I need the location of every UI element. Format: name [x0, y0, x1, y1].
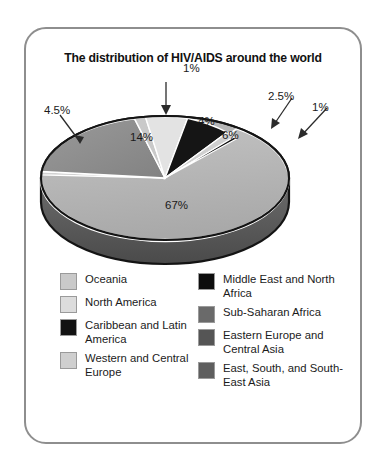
legend-swatch-western-central-europe — [60, 352, 77, 369]
legend-swatch-middle-east-north-africa — [198, 273, 215, 290]
legend-label-east-south-southeast-asia: East, South, and South-East Asia — [223, 361, 358, 389]
pie-chart-svg — [24, 60, 362, 270]
legend-column-right: Middle East and North Africa Sub-Saharan… — [198, 272, 358, 394]
legend-label-middle-east-north-africa: Middle East and North Africa — [223, 272, 358, 300]
legend-swatch-eastern-europe-central-asia — [198, 329, 215, 346]
callout-2-5-percent: 2.5% — [268, 90, 294, 102]
slice-label-4-percent: 4% — [198, 115, 215, 127]
callout-right-1-percent: 1% — [312, 101, 329, 113]
slice-label-6-percent: 6% — [222, 129, 239, 141]
chart-legend: Oceania North America Caribbean and Lati… — [24, 272, 362, 444]
legend-item-east-south-southeast-asia: East, South, and South-East Asia — [198, 361, 358, 389]
legend-column-left: Oceania North America Caribbean and Lati… — [60, 272, 200, 384]
slice-label-14-percent: 14% — [130, 131, 153, 143]
legend-label-north-america: North America — [85, 295, 157, 310]
legend-swatch-sub-saharan-africa — [198, 306, 215, 323]
legend-item-oceania: Oceania — [60, 272, 200, 290]
pie-chart — [24, 60, 362, 270]
legend-label-oceania: Oceania — [85, 272, 127, 287]
screenshot-root: The distribution of HIV/AIDS around the … — [0, 0, 388, 472]
legend-item-caribbean-latin-america: Caribbean and Latin America — [60, 318, 200, 346]
legend-item-western-central-europe: Western and Central Europe — [60, 351, 200, 379]
legend-label-sub-saharan-africa: Sub-Saharan Africa — [223, 305, 321, 320]
legend-label-western-central-europe: Western and Central Europe — [85, 351, 200, 379]
legend-swatch-east-south-southeast-asia — [198, 362, 215, 379]
legend-item-middle-east-north-africa: Middle East and North Africa — [198, 272, 358, 300]
legend-label-caribbean-latin-america: Caribbean and Latin America — [85, 318, 200, 346]
legend-swatch-caribbean-latin-america — [60, 319, 77, 336]
callout-4-5-percent: 4.5% — [44, 104, 70, 116]
legend-item-sub-saharan-africa: Sub-Saharan Africa — [198, 305, 358, 323]
legend-item-north-america: North America — [60, 295, 200, 313]
legend-item-eastern-europe-central-asia: Eastern Europe and Central Asia — [198, 328, 358, 356]
slice-label-67-percent: 67% — [165, 199, 188, 211]
legend-label-eastern-europe-central-asia: Eastern Europe and Central Asia — [223, 328, 358, 356]
legend-swatch-oceania — [60, 273, 77, 290]
legend-swatch-north-america — [60, 296, 77, 313]
callout-top-1-percent: 1% — [183, 62, 200, 74]
